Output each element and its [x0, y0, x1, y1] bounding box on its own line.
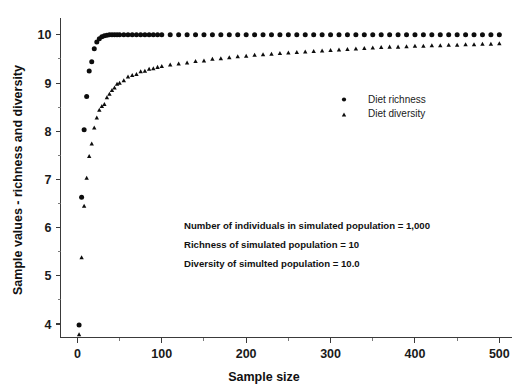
data-point-diversity [362, 46, 366, 50]
data-point-richness [404, 32, 409, 37]
data-point-richness [387, 32, 392, 37]
data-point-richness [235, 32, 240, 37]
data-point-diversity [185, 61, 189, 65]
data-point-richness [379, 32, 384, 37]
data-point-diversity [371, 46, 375, 50]
data-point-diversity [345, 47, 349, 51]
data-point-diversity [404, 44, 408, 48]
data-point-richness [480, 32, 485, 37]
data-point-diversity [328, 48, 332, 52]
data-point-diversity [168, 62, 172, 66]
data-point-diversity [379, 45, 383, 49]
data-point-richness [159, 32, 164, 37]
data-point-diversity [87, 154, 91, 158]
x-axis-tick-labels: 0100200300400500 [74, 347, 510, 361]
data-point-diversity [97, 108, 101, 112]
data-point-diversity [455, 43, 459, 47]
data-point-richness [79, 195, 84, 200]
data-point-diversity [126, 74, 130, 78]
data-point-diversity [95, 115, 99, 119]
data-point-diversity [269, 52, 273, 56]
data-point-diversity [147, 67, 151, 71]
data-point-richness [92, 46, 97, 51]
data-point-diversity [252, 53, 256, 57]
data-point-diversity [421, 44, 425, 48]
data-point-diversity [320, 48, 324, 52]
y-tick-label-5: 5 [45, 269, 52, 283]
data-point-diversity [489, 42, 493, 46]
data-point-richness [303, 32, 308, 37]
data-point-diversity [117, 81, 121, 85]
data-point-diversity [227, 55, 231, 59]
data-point-diversity [155, 65, 159, 69]
data-point-richness [463, 32, 468, 37]
data-point-richness [345, 32, 350, 37]
data-point-richness [77, 322, 82, 327]
data-point-richness [294, 32, 299, 37]
chart-figure: 45678910 0100200300400500 Sample size Sa… [0, 0, 529, 389]
data-point-diversity [84, 176, 88, 180]
y-tick-label-10: 10 [38, 28, 52, 42]
data-point-richness [497, 32, 502, 37]
annotation-line-richness: Richness of simulated population = 10 [184, 239, 359, 250]
data-point-richness [412, 32, 417, 37]
data-point-diversity [143, 69, 147, 73]
legend-marker-circle-icon [342, 97, 346, 101]
y-axis-title: Sample values - richness and diversity [11, 65, 25, 295]
data-point-diversity [92, 126, 96, 130]
data-point-richness [193, 32, 198, 37]
series-diet-richness-points [77, 32, 502, 327]
legend: Diet richness Diet diversity [342, 94, 426, 119]
data-point-richness [227, 32, 232, 37]
data-point-richness [472, 32, 477, 37]
data-point-diversity [160, 64, 164, 68]
data-point-richness [244, 32, 249, 37]
data-point-richness [269, 32, 274, 37]
data-point-diversity [430, 43, 434, 47]
x-tick-label-100: 100 [151, 347, 172, 361]
data-point-diversity [151, 66, 155, 70]
data-point-diversity [107, 92, 111, 96]
x-axis-group: 0100200300400500 [61, 338, 513, 361]
data-point-richness [421, 32, 426, 37]
y-axis-group: 45678910 [38, 18, 61, 338]
data-point-diversity [311, 49, 315, 53]
data-point-richness [168, 32, 173, 37]
data-point-richness [396, 32, 401, 37]
y-tick-label-6: 6 [45, 221, 52, 235]
data-point-diversity [244, 54, 248, 58]
data-point-richness [362, 32, 367, 37]
data-point-richness [84, 94, 89, 99]
data-point-diversity [497, 41, 501, 45]
x-tick-label-500: 500 [489, 347, 510, 361]
x-tick-label-400: 400 [405, 347, 426, 361]
legend-marker-triangle-icon [342, 113, 346, 117]
data-point-diversity [480, 42, 484, 46]
data-point-diversity [438, 43, 442, 47]
data-point-diversity [138, 69, 142, 73]
data-point-diversity [219, 56, 223, 60]
data-point-richness [218, 32, 223, 37]
data-point-richness [252, 32, 257, 37]
data-point-richness [286, 32, 291, 37]
data-point-richness [210, 32, 215, 37]
annotation-line-individuals: Number of individuals in simulated popul… [184, 220, 430, 231]
data-point-diversity [337, 48, 341, 52]
legend-label-diet-richness: Diet richness [368, 94, 426, 105]
data-point-richness [176, 32, 181, 37]
x-axis-title: Sample size [228, 370, 300, 384]
data-point-diversity [295, 50, 299, 54]
data-point-richness [446, 32, 451, 37]
data-point-diversity [82, 204, 86, 208]
data-point-diversity [176, 61, 180, 65]
data-point-richness [320, 32, 325, 37]
data-point-richness [201, 32, 206, 37]
data-point-richness [87, 69, 92, 74]
data-point-diversity [134, 72, 138, 76]
data-point-diversity [354, 47, 358, 51]
y-tick-label-8: 8 [45, 125, 52, 139]
data-point-richness [89, 59, 94, 64]
data-point-diversity [130, 73, 134, 77]
data-point-diversity [261, 52, 265, 56]
legend-label-diet-diversity: Diet diversity [368, 108, 425, 119]
